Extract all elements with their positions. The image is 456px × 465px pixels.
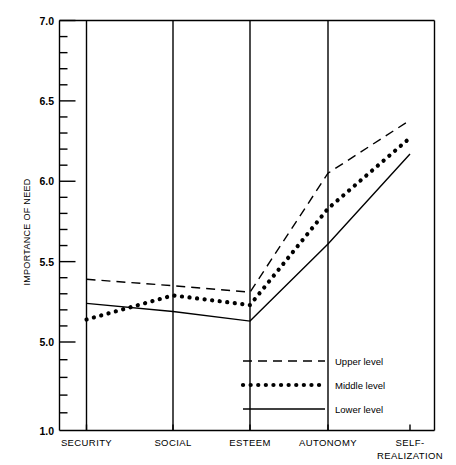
category-label: SECURITY bbox=[61, 437, 112, 448]
y-axis-title: IMPORTANCE OF NEED bbox=[22, 178, 32, 285]
line-chart: 7.06.56.05.55.01.0 SECURITYSOCIALESTEEMA… bbox=[0, 0, 456, 465]
y-tick-label: 6.0 bbox=[39, 175, 54, 187]
legend-label: Lower level bbox=[335, 404, 383, 415]
category-label: SOCIAL bbox=[154, 437, 191, 448]
category-label: ESTEEM bbox=[229, 437, 270, 448]
legend-label: Upper level bbox=[335, 356, 383, 367]
chart-container: 7.06.56.05.55.01.0 SECURITYSOCIALESTEEMA… bbox=[0, 0, 456, 465]
category-label: SELF- bbox=[396, 437, 425, 448]
y-tick-label: 1.0 bbox=[39, 425, 54, 437]
category-label: AUTONOMY bbox=[299, 437, 357, 448]
legend-label: Middle level bbox=[335, 380, 385, 391]
y-tick-label: 7.0 bbox=[39, 15, 54, 27]
category-label: REALIZATION bbox=[377, 450, 443, 461]
y-tick-label: 5.5 bbox=[39, 256, 54, 268]
y-tick-label: 5.0 bbox=[39, 336, 54, 348]
chart-background bbox=[0, 0, 456, 465]
y-tick-label: 6.5 bbox=[39, 95, 54, 107]
